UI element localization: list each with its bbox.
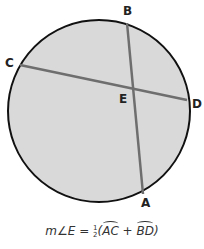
circle: [8, 20, 190, 202]
formula-prefix: m∠E =: [45, 224, 93, 238]
arc-bd: BD: [136, 224, 153, 238]
close-paren: ): [154, 224, 159, 238]
angle-formula: m∠E = 12(AC + BD): [0, 224, 204, 239]
arc-ac: AC: [102, 224, 119, 238]
point-label-e: E: [119, 92, 127, 106]
circle-diagram: [0, 0, 204, 249]
point-label-a: A: [141, 196, 150, 210]
plus-sign: +: [119, 224, 137, 238]
point-label-c: C: [5, 56, 14, 70]
point-label-d: D: [192, 97, 202, 111]
point-label-b: B: [123, 4, 132, 18]
